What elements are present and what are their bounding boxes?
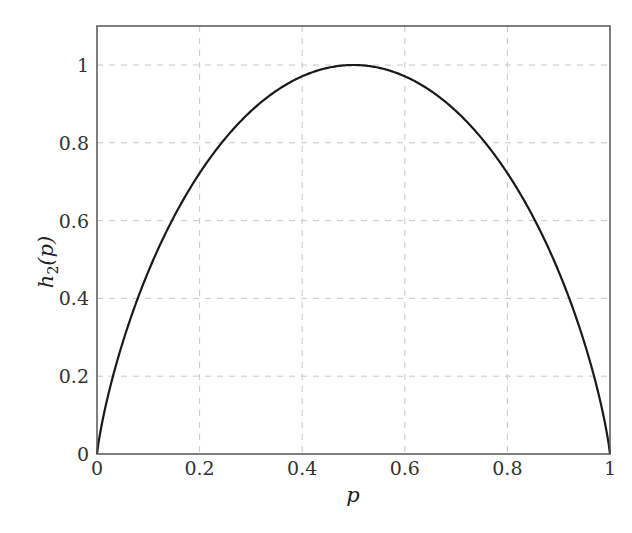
y-tick-label: 0 bbox=[77, 443, 89, 465]
y-axis-label: h2(p) bbox=[34, 236, 61, 288]
plot-frame bbox=[97, 26, 610, 454]
entropy-curve bbox=[97, 65, 610, 454]
y-tick-label: 1 bbox=[77, 54, 89, 76]
x-tick-label: 0.6 bbox=[390, 457, 420, 479]
y-tick-label: 0.6 bbox=[59, 210, 89, 232]
y-tick-label: 0.4 bbox=[59, 287, 89, 309]
y-axis-label-main: h bbox=[34, 275, 58, 289]
entropy-chart: 00.20.40.60.81 00.20.40.60.81 p h2(p) bbox=[0, 0, 632, 533]
y-tick-label: 0.8 bbox=[59, 132, 89, 154]
x-tick-label: 0.8 bbox=[492, 457, 522, 479]
x-axis-ticks: 00.20.40.60.81 bbox=[91, 457, 616, 479]
y-axis-ticks: 00.20.40.60.81 bbox=[59, 54, 89, 465]
y-axis-label-arg: (p) bbox=[34, 236, 58, 266]
x-tick-label: 0.2 bbox=[184, 457, 214, 479]
x-axis-label: p bbox=[346, 483, 359, 507]
x-tick-label: 0 bbox=[91, 457, 103, 479]
y-tick-label: 0.2 bbox=[59, 365, 89, 387]
grid-lines bbox=[97, 26, 610, 454]
x-tick-label: 1 bbox=[604, 457, 616, 479]
y-axis-label-subscript: 2 bbox=[45, 266, 61, 275]
x-tick-label: 0.4 bbox=[287, 457, 317, 479]
